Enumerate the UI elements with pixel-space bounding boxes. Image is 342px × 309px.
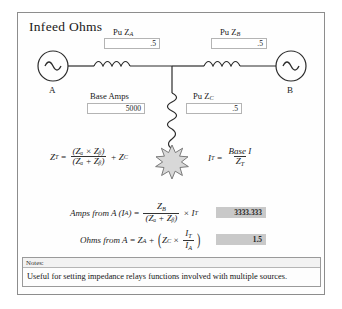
it-eq: = [217,153,223,163]
pu-za-label-text: Pu Z [113,27,129,37]
notes-header: Notes: [23,258,320,268]
zt-eq: = [61,152,67,162]
amps-num-sub: B [162,205,166,212]
amps-eq: = [133,208,139,218]
infeed-ohms-panel: Infeed Ohms [17,12,325,295]
pu-zb-label-text: Pu Z [220,27,236,37]
it-lhs-sub: T [211,154,215,161]
ohms-num-sub: T [188,232,192,239]
pu-za-input[interactable]: .5 [104,38,160,49]
ohms-lhs-sub: A [143,237,147,244]
formula-amps-from-a: Amps from A (IA) = ZB (Zₐ + Zᵦ) × IT [70,202,198,223]
amps-from-a-result: 3333.333 [216,207,266,218]
formula-ohms-from-a: Ohms from A = ZA + ( ZC × IT IA ) [80,229,201,251]
zt-denominator: (Zₐ + Zᵦ) [71,156,107,166]
ohms-den-sub: A [188,244,192,251]
pu-zc-label-sub: C [209,94,213,101]
ohms-numerator: IT [183,229,194,240]
formula-it: IT = Base I ZT [208,147,255,168]
pu-zc-input[interactable]: .5 [186,103,242,114]
zt-plus: + Z [110,152,123,162]
it-denominator: ZT [234,156,247,168]
ohms-from-a-result: 1.5 [216,234,266,245]
fault-burst-icon [156,145,189,179]
amps-arg-close: ) [128,208,131,218]
pu-za-label: Pu ZA [113,27,133,37]
pu-zb-label-sub: B [236,30,240,37]
amps-numerator: ZB [155,202,168,213]
amps-fraction: ZB (Zₐ + Zᵦ) [143,202,179,223]
it-den-sub: T [241,160,245,167]
zt-fraction: (Zₐ × Zᵦ) (Zₐ + Zᵦ) [71,147,107,167]
zt-plus-sub: C [124,153,128,160]
zt-lhs-sub: T [55,153,59,160]
pu-za-label-sub: A [129,30,133,37]
amps-times-sub: T [195,209,199,216]
amps-denominator: (Zₐ + Zᵦ) [143,213,179,223]
zt-numerator: (Zₐ × Zᵦ) [71,147,107,156]
it-fraction: Base I ZT [227,147,254,168]
pu-zc-label-text: Pu Z [193,91,209,101]
base-amps-label: Base Amps [90,91,129,101]
pu-zb-input[interactable]: .5 [211,38,267,49]
formula-zt: ZT = (Zₐ × Zᵦ) (Zₐ + Zᵦ) + ZC [50,147,128,167]
it-numerator: Base I [227,147,254,156]
source-b-label: B [287,85,293,95]
pu-zc-label: Pu ZC [193,91,214,101]
notes-box: Notes: Useful for setting impedance rela… [22,257,321,287]
notes-text[interactable]: Useful for setting impedance relays func… [23,268,320,286]
base-amps-input[interactable]: 5000 [87,103,145,114]
screenshot-root: Infeed Ohms [0,0,342,309]
ohms-from-a-label: Ohms from A [80,235,128,245]
ohms-times: × [173,235,179,245]
amps-times: × I [183,208,194,218]
amps-from-a-label: Amps from A [70,208,117,218]
ohms-plus: + [148,235,154,245]
source-a-label: A [49,85,56,95]
ohms-fraction: IT IA [183,229,194,251]
ohms-eq: = [130,235,136,245]
pu-zb-label: Pu ZB [220,27,240,37]
ohms-inner-lhs-sub: C [167,237,171,244]
ohms-denominator: IA [183,240,194,252]
